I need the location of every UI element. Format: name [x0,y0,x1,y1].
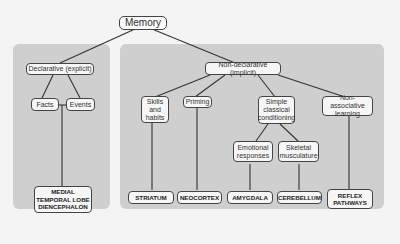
facts-node: Facts [31,98,59,111]
nondeclarative-node: Non-declarative (implicit) [205,62,281,75]
neocortex-node: NEOCORTEX [177,191,222,204]
skills-habits-node: Skills and habits [141,96,169,123]
simple-conditioning-node: Simple classical conditioning [258,96,295,124]
striatum-node: STRIATUM [128,191,174,204]
priming-node: Priming [183,96,212,108]
skeletal-musculature-node: Skeletal musculature [278,141,319,162]
reflex-pathways-node: REFLEX PATHWAYS [327,189,373,209]
nonassociative-node: Non-associative learning [322,96,373,116]
declarative-node: Declarative (explicit) [26,63,94,75]
events-node: Events [66,98,95,111]
medial-temporal-lobe-node: MEDIAL TEMPORAL LOBE DIENCEPHALON [34,186,92,213]
emotional-responses-node: Emotional responses [233,141,273,162]
amygdala-node: AMYGDALA [227,191,273,204]
cerebellum-node: CEREBELLUM [277,191,322,204]
memory-node: Memory [119,16,167,30]
